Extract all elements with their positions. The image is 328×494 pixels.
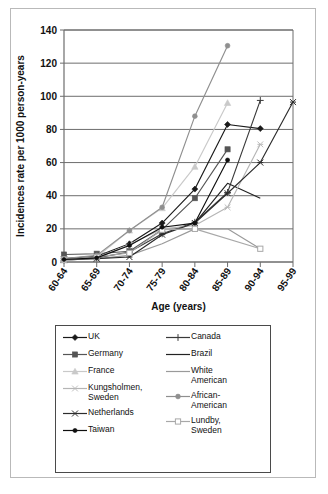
legend-column-2: CanadaBrazilWhite AmericanAfrican- Ameri… (165, 331, 266, 468)
legend-marker-icon (165, 416, 191, 427)
data-point (257, 141, 263, 147)
legend-marker-icon (165, 332, 191, 343)
legend-label: Netherlands (88, 407, 134, 417)
data-point (160, 205, 165, 210)
data-point (192, 164, 198, 170)
data-point (225, 158, 229, 162)
legend-item-white-american[interactable]: White American (165, 365, 266, 385)
legend-marker-icon (165, 391, 191, 402)
legend-point (72, 411, 78, 417)
series-france (61, 100, 231, 263)
legend-point (72, 335, 78, 341)
data-point (225, 121, 231, 127)
legend-grid: UKGermanyFranceKungsholmen, SwedenNether… (56, 326, 270, 472)
ytick-label-80: 80 (46, 124, 58, 135)
data-point (95, 256, 99, 260)
legend-point (72, 352, 77, 357)
legend-item-canada[interactable]: Canada (165, 331, 266, 343)
legend-item-netherlands[interactable]: Netherlands (62, 407, 163, 419)
ytick-label-40: 40 (46, 190, 58, 201)
ytick-label-140: 140 (40, 25, 57, 36)
ytick-label-20: 20 (46, 223, 58, 234)
legend-item-lundby-sweden[interactable]: Lundby, Sweden (165, 415, 266, 435)
xtick-label-7: 95-99 (275, 265, 299, 293)
data-point (193, 221, 197, 225)
chart-svg: 02040608010012014060-6465-6970-7475-7980… (10, 8, 316, 313)
data-point (127, 243, 131, 247)
legend-item-brazil[interactable]: Brazil (165, 348, 266, 360)
xtick-label-5: 85-89 (210, 265, 234, 293)
xtick-label-2: 70-74 (111, 265, 135, 293)
data-point (127, 250, 132, 255)
legend-label: Canada (191, 331, 221, 341)
data-point (192, 114, 197, 119)
series-line (64, 149, 228, 254)
xtick-label-1: 65-69 (79, 265, 103, 293)
legend-label: African- American (191, 390, 227, 410)
legend-swatch-svg (165, 349, 191, 360)
legend-item-germany[interactable]: Germany (62, 348, 163, 360)
legend-label: Kungsholmen, Sweden (88, 382, 142, 402)
legend-marker-icon (62, 408, 88, 419)
legend-marker-icon (62, 383, 88, 394)
xtick-label-0: 60-64 (46, 265, 70, 293)
data-point (225, 204, 231, 210)
series-line (64, 144, 260, 260)
legend-label: Taiwan (88, 424, 114, 434)
legend-marker-icon (165, 349, 191, 360)
data-point (160, 225, 164, 229)
data-point (225, 43, 230, 48)
data-point (224, 100, 230, 106)
figure-root: 02040608010012014060-6465-6970-7475-7980… (0, 0, 328, 494)
legend-marker-icon (62, 366, 88, 377)
legend-swatch-svg (165, 416, 191, 427)
series-line (64, 124, 260, 258)
legend-item-taiwan[interactable]: Taiwan (62, 424, 163, 436)
legend-label: UK (88, 331, 100, 341)
legend-swatch-svg (165, 332, 191, 343)
legend-marker-icon (62, 425, 88, 436)
legend-swatch-svg (62, 425, 88, 436)
legend-swatch-svg (62, 366, 88, 377)
x-axis-title: Age (years) (151, 301, 205, 312)
legend-item-uk[interactable]: UK (62, 331, 163, 343)
ytick-label-60: 60 (46, 157, 58, 168)
legend-point (73, 428, 77, 432)
data-point (257, 97, 264, 104)
legend-item-kungsholmen-sweden[interactable]: Kungsholmen, Sweden (62, 382, 163, 402)
data-point (192, 196, 197, 201)
ytick-label-100: 100 (40, 91, 57, 102)
data-point (257, 160, 263, 166)
series-netherlands (61, 99, 296, 262)
legend-swatch-svg (62, 332, 88, 343)
legend-label: White American (191, 365, 227, 385)
xtick-label-6: 90-94 (242, 265, 266, 293)
ytick-label-120: 120 (40, 58, 57, 69)
legend-point (72, 386, 78, 392)
legend-point (175, 419, 180, 424)
series-kungsholmen-sweden (61, 141, 263, 263)
legend-marker-icon (62, 332, 88, 343)
legend-marker-icon (62, 349, 88, 360)
series-line (64, 160, 228, 259)
data-point (62, 257, 66, 261)
xtick-label-4: 80-84 (177, 265, 201, 293)
line-chart: 02040608010012014060-6465-6970-7475-7980… (10, 8, 316, 313)
data-point (127, 228, 132, 233)
legend-swatch-svg (165, 366, 191, 377)
legend-marker-icon (165, 366, 191, 377)
legend-label: France (88, 365, 114, 375)
legend-point (176, 394, 181, 399)
legend-label: Lundby, Sweden (191, 415, 222, 435)
series-germany (61, 147, 230, 257)
series-canada (61, 97, 264, 264)
data-point (225, 147, 230, 152)
legend-label: Brazil (191, 348, 212, 358)
ytick-label-0: 0 (51, 257, 57, 268)
data-point (257, 126, 263, 132)
legend-point (175, 334, 182, 341)
legend-swatch-svg (62, 383, 88, 394)
legend-item-france[interactable]: France (62, 365, 163, 377)
chart-legend: UKGermanyFranceKungsholmen, SwedenNether… (55, 325, 271, 473)
legend-item-african-american[interactable]: African- American (165, 390, 266, 410)
